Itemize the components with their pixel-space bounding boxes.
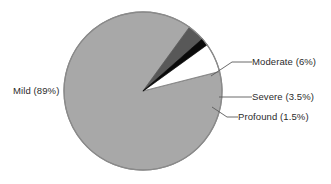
pie-chart-figure: Mild (89%) Moderate (6%) Severe (3.5%) P… (0, 0, 331, 184)
pie-label-mild: Mild (89%) (13, 85, 59, 96)
pie-label-moderate: Moderate (6%) (252, 56, 316, 67)
pie-label-severe: Severe (3.5%) (252, 91, 314, 102)
pie-label-profound: Profound (1.5%) (238, 111, 309, 122)
